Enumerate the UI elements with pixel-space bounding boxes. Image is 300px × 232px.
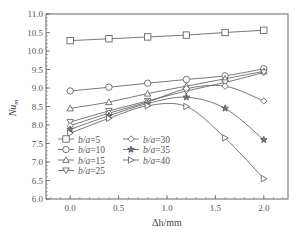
legend-label: b/a=35	[143, 145, 170, 155]
circle-marker-icon	[106, 84, 112, 90]
diamond-marker-icon	[128, 136, 134, 142]
series-line	[70, 85, 264, 125]
legend-label: b/a=40	[143, 156, 170, 166]
y-tick-label: 10.5	[27, 28, 43, 38]
y-tick-label: 9.5	[32, 65, 44, 75]
triangle-right-marker-icon	[128, 157, 134, 163]
y-tick-label: 8.0	[32, 120, 44, 130]
series-line	[70, 71, 264, 108]
y-tick-label: 6.0	[32, 194, 44, 204]
square-marker-icon	[106, 36, 112, 42]
star-marker-icon	[128, 146, 135, 152]
legend-label-value: =25	[90, 166, 105, 176]
legend-item: b/a=35	[123, 145, 170, 155]
star-marker-icon	[260, 136, 267, 142]
triangle-right-marker-icon	[184, 103, 190, 109]
legend-item: b/a=25	[58, 166, 105, 176]
y-tick-label: 7.0	[32, 157, 44, 167]
legend-label-value: =40	[155, 156, 170, 166]
star-marker-icon	[183, 94, 190, 100]
legend-label: b/a=25	[78, 166, 105, 176]
diamond-marker-icon	[261, 98, 267, 104]
x-tick-label: 2.0	[258, 203, 270, 213]
series-b-a-5	[67, 27, 267, 44]
y-axis-title: Num	[7, 100, 20, 118]
y-axis-title-main: Nu	[7, 105, 18, 118]
circle-marker-icon	[63, 146, 69, 152]
legend-item: b/a=15	[58, 156, 105, 166]
y-tick-label: 11.0	[28, 9, 44, 19]
y-tick-label: 9.0	[32, 83, 44, 93]
square-marker-icon	[222, 29, 228, 35]
square-marker-icon	[144, 34, 150, 40]
legend: b/a=5b/a=10b/a=15b/a=25b/a=30b/a=35b/a=4…	[58, 135, 170, 177]
legend-item: b/a=5	[58, 135, 100, 145]
square-marker-icon	[261, 27, 267, 33]
legend-item: b/a=10	[58, 145, 105, 155]
legend-label: b/a=10	[78, 145, 105, 155]
y-tick-label: 10.0	[27, 46, 43, 56]
legend-label-value: =30	[155, 135, 170, 145]
square-marker-icon	[67, 37, 73, 43]
circle-marker-icon	[183, 76, 189, 82]
x-tick-label: 0.5	[113, 203, 125, 213]
x-tick-label: 1.5	[210, 203, 222, 213]
y-axis-title-sub: m	[12, 100, 20, 105]
square-marker-icon	[63, 136, 69, 142]
y-tick-label: 7.5	[32, 139, 44, 149]
legend-item: b/a=40	[123, 156, 170, 166]
legend-label: b/a=5	[78, 135, 100, 145]
legend-label-value: =10	[90, 145, 105, 155]
star-marker-icon	[222, 105, 229, 111]
x-tick-label: 1.0	[161, 203, 173, 213]
legend-item: b/a=30	[123, 135, 170, 145]
diamond-marker-icon	[222, 83, 228, 89]
legend-label-value: =15	[90, 156, 105, 166]
y-tick-label: 6.5	[32, 176, 44, 186]
legend-label: b/a=15	[78, 156, 105, 166]
legend-label-value: =5	[90, 135, 100, 145]
triangle-right-marker-icon	[261, 175, 267, 181]
circle-marker-icon	[144, 80, 150, 86]
square-marker-icon	[183, 32, 189, 38]
legend-label-value: =35	[155, 145, 170, 155]
series-line	[70, 30, 264, 40]
circle-marker-icon	[67, 88, 73, 94]
x-axis-title: Δh/mm	[152, 217, 182, 228]
y-tick-label: 8.5	[32, 102, 44, 112]
plot-axes: 6.06.57.07.58.08.59.09.510.010.511.00.00…	[27, 9, 288, 213]
line-chart: 6.06.57.07.58.08.59.09.510.010.511.00.00…	[0, 0, 300, 232]
legend-label: b/a=30	[143, 135, 170, 145]
x-tick-label: 0.0	[65, 203, 77, 213]
